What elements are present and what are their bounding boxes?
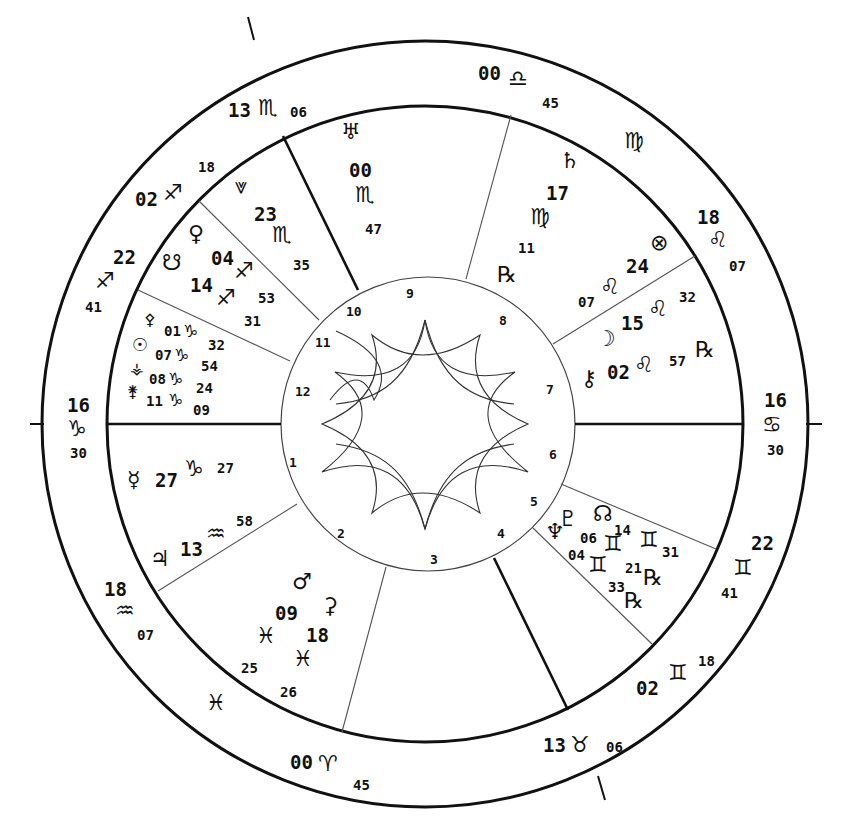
svg-text:07: 07 bbox=[137, 627, 154, 643]
cusp-line-3 bbox=[342, 567, 386, 732]
cusp-label-6: 22 ♊ 41 bbox=[721, 532, 774, 601]
svg-text:07: 07 bbox=[729, 258, 746, 274]
scorpio-icon: ♏ bbox=[272, 222, 292, 247]
part-of-fortune-icon: ⊗ bbox=[650, 230, 668, 255]
svg-text:17: 17 bbox=[546, 182, 569, 204]
svg-text:47: 47 bbox=[365, 221, 382, 237]
saturn-icon: ♄ bbox=[560, 148, 580, 173]
svg-text:21: 21 bbox=[625, 560, 642, 576]
leo-icon: ♌ bbox=[600, 274, 620, 299]
house-number-8: 8 bbox=[499, 313, 507, 328]
astrology-chart-wheel: 1 2 3 4 5 6 7 8 9 10 11 12 16 ♑ 30 16 ♋ … bbox=[0, 0, 844, 824]
svg-text:45: 45 bbox=[542, 95, 559, 111]
planet-sun: ☉ 07 ♑ 54 bbox=[132, 334, 218, 374]
cusp-label-11: 02 ♐ 18 bbox=[135, 159, 215, 210]
svg-text:57: 57 bbox=[669, 353, 686, 369]
mc-tick bbox=[248, 17, 254, 40]
svg-text:13: 13 bbox=[180, 538, 203, 560]
retrograde-icon: ℞ bbox=[497, 262, 517, 287]
svg-text:07: 07 bbox=[155, 347, 172, 363]
svg-text:11: 11 bbox=[518, 240, 535, 256]
svg-text:58: 58 bbox=[236, 513, 253, 529]
house-number-5: 5 bbox=[530, 494, 538, 509]
house-number-circle bbox=[281, 277, 575, 571]
svg-text:41: 41 bbox=[85, 299, 102, 315]
pisces-icon: ♓ bbox=[256, 623, 276, 648]
retrograde-icon: ℞ bbox=[624, 588, 644, 613]
house-number-2: 2 bbox=[337, 526, 345, 541]
svg-text:02: 02 bbox=[607, 361, 630, 383]
svg-text:02: 02 bbox=[135, 188, 158, 210]
ic-tick bbox=[598, 776, 605, 800]
libra-icon: ♎ bbox=[508, 66, 528, 91]
sagittarius-icon: ♐ bbox=[95, 268, 115, 293]
gemini-icon: ♊ bbox=[639, 527, 659, 552]
svg-text:16: 16 bbox=[67, 394, 90, 416]
ceres-icon: ⚳ bbox=[322, 593, 338, 618]
svg-text:41: 41 bbox=[721, 585, 738, 601]
svg-text:15: 15 bbox=[621, 312, 644, 334]
planet-uranus: ♅ 00 ♏ 47 bbox=[341, 119, 382, 237]
svg-text:04: 04 bbox=[568, 547, 585, 563]
virgo-icon: ♍ bbox=[624, 128, 644, 153]
svg-text:33: 33 bbox=[608, 579, 625, 595]
gemini-icon: ♊ bbox=[733, 555, 753, 580]
leo-icon: ♌ bbox=[648, 296, 668, 321]
planet-saturn: ♄ 17 ♍ 11 ℞ bbox=[497, 148, 580, 287]
svg-text:04: 04 bbox=[211, 247, 234, 269]
taurus-icon: ♉ bbox=[570, 732, 590, 757]
aries-icon: ♈ bbox=[318, 751, 338, 776]
svg-text:06: 06 bbox=[580, 530, 597, 546]
cusp-line-2 bbox=[158, 504, 297, 591]
svg-text:18: 18 bbox=[198, 159, 215, 175]
svg-text:07: 07 bbox=[578, 294, 595, 310]
svg-text:08: 08 bbox=[149, 371, 166, 387]
svg-text:00: 00 bbox=[290, 751, 313, 773]
svg-text:16: 16 bbox=[764, 389, 787, 411]
planet-mercury: ☿ 27 ♑ 27 bbox=[127, 456, 234, 492]
leo-icon: ♌ bbox=[634, 352, 654, 377]
mercury-icon: ☿ bbox=[127, 467, 141, 492]
house-number-1: 1 bbox=[289, 455, 297, 470]
pisces-icon: ♓ bbox=[206, 690, 226, 715]
svg-text:31: 31 bbox=[244, 313, 261, 329]
svg-text:22: 22 bbox=[751, 532, 774, 554]
juno-icon: ⚵ bbox=[127, 382, 139, 401]
svg-text:14: 14 bbox=[614, 522, 631, 538]
svg-text:18: 18 bbox=[698, 653, 715, 669]
svg-text:30: 30 bbox=[767, 442, 784, 458]
svg-text:25: 25 bbox=[241, 660, 258, 676]
house-number-3: 3 bbox=[430, 552, 438, 567]
vesta-icon: ⚶ bbox=[130, 359, 144, 378]
svg-text:18: 18 bbox=[697, 206, 720, 228]
house-number-6: 6 bbox=[549, 447, 557, 462]
cusp-label-12: 22 ♐ 41 bbox=[85, 246, 136, 315]
svg-text:18: 18 bbox=[104, 578, 127, 600]
mars-icon: ♂ bbox=[292, 569, 312, 594]
aquarius-icon: ♒ bbox=[115, 598, 135, 623]
pallas-icon: ⚴ bbox=[144, 310, 156, 329]
cusp-line-4-ic bbox=[494, 558, 568, 710]
svg-text:18: 18 bbox=[306, 624, 329, 646]
sun-icon: ☉ bbox=[132, 334, 148, 355]
cusp-label-8: 18 ♌ 07 bbox=[697, 206, 746, 274]
capricorn-icon: ♑ bbox=[183, 321, 198, 341]
house-number-12: 12 bbox=[295, 384, 311, 399]
sagittarius-icon: ♐ bbox=[163, 180, 183, 205]
svg-text:01: 01 bbox=[164, 323, 181, 339]
cancer-icon: ♋ bbox=[762, 412, 782, 437]
capricorn-icon: ♑ bbox=[168, 390, 183, 410]
virgo-icon: ♍ bbox=[530, 204, 550, 229]
scorpio-icon: ♏ bbox=[355, 182, 375, 207]
svg-text:53: 53 bbox=[258, 290, 275, 306]
sagittarius-icon: ♐ bbox=[216, 285, 236, 310]
svg-text:32: 32 bbox=[679, 289, 696, 305]
svg-text:26: 26 bbox=[280, 684, 297, 700]
retrograde-icon: ℞ bbox=[695, 337, 715, 362]
cusp-label-2: 18 ♒ 07 bbox=[104, 578, 154, 643]
planet-jupiter: ♃ 13 ♒ 58 bbox=[150, 513, 253, 571]
house-number-7: 7 bbox=[546, 382, 554, 397]
vertex-icon: ⩔ bbox=[235, 173, 247, 198]
svg-text:06: 06 bbox=[606, 739, 623, 755]
south-node-icon: ☋ bbox=[162, 250, 182, 275]
